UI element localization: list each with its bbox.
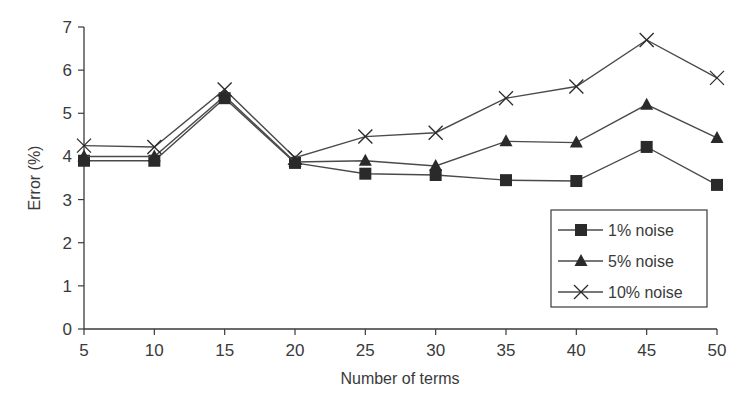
- x-tick-label: 25: [356, 341, 375, 360]
- data-series: [77, 33, 724, 191]
- data-point-square: [641, 141, 653, 153]
- x-axis-label: Number of terms: [340, 370, 459, 387]
- x-tick-label: 20: [286, 341, 305, 360]
- x-tick-label: 40: [567, 341, 586, 360]
- y-tick-label: 0: [63, 320, 72, 339]
- x-tick-label: 45: [637, 341, 656, 360]
- x-tick-label: 10: [145, 341, 164, 360]
- data-point-x: [710, 71, 724, 85]
- x-tick-label: 50: [708, 341, 727, 360]
- legend-label: 1% noise: [608, 222, 674, 239]
- data-point-x: [569, 80, 583, 94]
- data-point-x: [499, 91, 513, 105]
- data-point-triangle: [359, 154, 372, 166]
- y-tick-label: 7: [63, 18, 72, 37]
- y-axis-label: Error (%): [26, 146, 43, 211]
- series-line: [84, 98, 717, 185]
- data-point-triangle: [500, 134, 513, 146]
- series-10-noise: [77, 33, 724, 165]
- data-point-square: [500, 174, 512, 186]
- series-line: [84, 40, 717, 158]
- legend-label: 10% noise: [608, 284, 683, 301]
- series-line: [84, 96, 717, 166]
- axes: 012345675101520253035404550: [63, 18, 727, 360]
- legend: 1% noise5% noise10% noise: [551, 210, 707, 307]
- y-tick-label: 1: [63, 277, 72, 296]
- data-point-square: [570, 175, 582, 187]
- data-point-x: [640, 33, 654, 47]
- data-point-square: [711, 179, 723, 191]
- y-tick-label: 5: [63, 104, 72, 123]
- data-point-triangle: [570, 136, 583, 148]
- legend-marker-square: [575, 224, 587, 236]
- data-point-square: [359, 168, 371, 180]
- x-tick-label: 35: [497, 341, 516, 360]
- line-chart: 012345675101520253035404550 1% noise5% n…: [0, 0, 749, 402]
- legend-label: 5% noise: [608, 253, 674, 270]
- x-tick-label: 5: [79, 341, 88, 360]
- x-tick-label: 30: [426, 341, 445, 360]
- y-tick-label: 6: [63, 61, 72, 80]
- data-point-triangle: [640, 98, 653, 110]
- data-point-triangle: [711, 131, 724, 143]
- y-tick-label: 4: [63, 147, 72, 166]
- x-tick-label: 15: [215, 341, 234, 360]
- y-tick-label: 3: [63, 191, 72, 210]
- series-1-noise: [78, 92, 723, 191]
- y-tick-label: 2: [63, 234, 72, 253]
